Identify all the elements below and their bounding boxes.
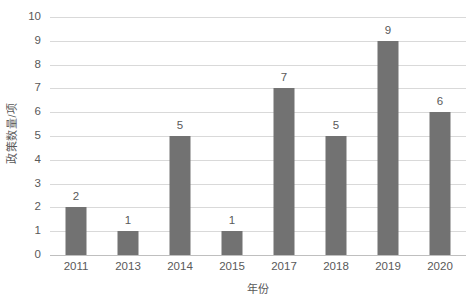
bar-value-label: 1 xyxy=(229,215,235,227)
x-axis-tick-labels: 20112013201420152017201820192020 xyxy=(50,258,466,278)
x-axis-tick-label: 2017 xyxy=(271,261,297,273)
bar-value-label: 1 xyxy=(125,215,131,227)
bar[interactable] xyxy=(274,88,295,255)
x-axis-title: 年份 xyxy=(50,280,466,296)
y-axis-tick-label: 6 xyxy=(35,106,41,118)
x-axis-tick-label: 2020 xyxy=(427,261,453,273)
bar-slot: 2 xyxy=(50,17,102,255)
bar-chart: 政策数量/项 012345678910 21517596 20112013201… xyxy=(0,0,475,307)
x-axis-tick-label: 2015 xyxy=(219,261,245,273)
axis-line-baseline xyxy=(50,255,466,256)
y-axis-tick-label: 2 xyxy=(35,202,41,214)
x-axis-title-text: 年份 xyxy=(247,283,270,295)
plot-area: 21517596 xyxy=(50,17,466,255)
bar[interactable] xyxy=(222,231,243,255)
bar[interactable] xyxy=(118,231,139,255)
y-axis-tick-label: 3 xyxy=(35,178,41,190)
bar-slot: 1 xyxy=(206,17,258,255)
bar-slot: 5 xyxy=(310,17,362,255)
bar[interactable] xyxy=(66,207,87,255)
x-axis-tick-label: 2014 xyxy=(167,261,193,273)
y-axis-tick-label: 9 xyxy=(35,35,41,47)
bar[interactable] xyxy=(326,136,347,255)
bar-slot: 1 xyxy=(102,17,154,255)
bar-slot: 7 xyxy=(258,17,310,255)
x-axis-tick-label: 2018 xyxy=(323,261,349,273)
bar-value-label: 7 xyxy=(281,72,287,84)
y-axis-tick-label: 8 xyxy=(35,59,41,71)
bar-value-label: 6 xyxy=(437,96,443,108)
bar[interactable] xyxy=(170,136,191,255)
x-axis-tick-label: 2011 xyxy=(64,261,89,273)
y-axis-tick-label: 4 xyxy=(35,154,41,166)
bar-value-label: 9 xyxy=(385,25,391,37)
x-axis-tick-label: 2013 xyxy=(115,261,141,273)
bar-slot: 5 xyxy=(154,17,206,255)
x-axis-tick-label: 2019 xyxy=(375,261,401,273)
y-axis-tick-label: 1 xyxy=(35,225,41,237)
y-axis-tick-label: 5 xyxy=(35,130,41,142)
bar-slot: 6 xyxy=(414,17,466,255)
bar-value-label: 5 xyxy=(177,120,183,132)
y-axis-tick-label: 7 xyxy=(35,83,41,95)
bar[interactable] xyxy=(430,112,451,255)
y-axis-tick-labels: 012345678910 xyxy=(0,0,50,307)
bar-value-label: 5 xyxy=(333,120,339,132)
bar-series: 21517596 xyxy=(50,17,466,255)
bar-slot: 9 xyxy=(362,17,414,255)
bar-value-label: 2 xyxy=(73,191,79,203)
bar[interactable] xyxy=(378,41,399,255)
y-axis-tick-label: 10 xyxy=(28,11,41,23)
y-axis-tick-label: 0 xyxy=(35,249,41,261)
